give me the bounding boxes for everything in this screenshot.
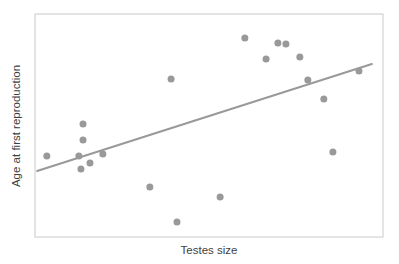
data-point	[320, 95, 327, 102]
data-point	[80, 136, 87, 143]
data-point	[168, 75, 175, 82]
data-point	[282, 41, 289, 48]
data-point	[296, 54, 303, 61]
data-point	[75, 153, 82, 160]
y-axis-label: Age at first reproduction	[10, 65, 22, 187]
data-point	[263, 56, 270, 63]
plot-area-border	[35, 14, 383, 237]
data-point	[355, 68, 362, 75]
x-axis-label: Testes size	[181, 244, 238, 256]
data-point	[86, 159, 93, 166]
data-point	[304, 77, 311, 84]
data-point	[329, 149, 336, 156]
data-point	[146, 184, 153, 191]
data-point	[217, 194, 224, 201]
data-point	[241, 35, 248, 42]
scatter-plot	[0, 0, 399, 264]
data-point	[99, 151, 106, 158]
data-point	[173, 219, 180, 226]
data-point	[77, 165, 84, 172]
data-point	[43, 153, 50, 160]
scatter-figure: Age at first reproduction Testes size	[0, 0, 399, 264]
data-point	[274, 39, 281, 46]
data-point	[80, 120, 87, 127]
